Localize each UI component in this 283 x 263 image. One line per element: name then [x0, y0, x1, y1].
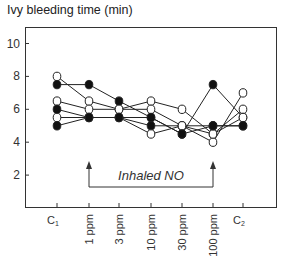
y-tick-label: 10 — [7, 37, 21, 51]
filled-circle-marker — [85, 113, 93, 121]
x-tick-label: 100 ppm — [207, 214, 219, 257]
filled-circle-marker — [85, 80, 93, 88]
open-circle-marker — [209, 130, 217, 138]
arrow-up-icon — [210, 161, 216, 169]
filled-circle-marker — [53, 122, 61, 130]
filled-circle-marker — [147, 113, 155, 121]
open-circle-marker — [53, 97, 61, 105]
filled-circle-marker — [209, 122, 217, 130]
open-circle-marker — [209, 138, 217, 146]
y-tick-label: 8 — [13, 69, 20, 83]
filled-circle-marker — [115, 113, 123, 121]
y-tick-label: 6 — [13, 102, 20, 116]
chart-plot: 246810 C11 ppm3 ppm10 ppm30 ppm100 ppmC2… — [0, 0, 283, 263]
open-circle-marker — [178, 122, 186, 130]
open-circle-marker — [147, 130, 155, 138]
open-circle-marker — [85, 105, 93, 113]
filled-circle-marker — [115, 97, 123, 105]
x-tick-label: C1 — [47, 214, 59, 227]
annotation-label: Inhaled NO — [118, 168, 184, 183]
open-circle-marker — [85, 97, 93, 105]
y-tick-label: 2 — [13, 168, 20, 182]
x-tick-label: C2 — [233, 214, 245, 227]
x-tick-label: 1 ppm — [83, 214, 95, 245]
open-circle-marker — [239, 89, 247, 97]
open-circle-marker — [147, 105, 155, 113]
open-circle-marker — [53, 113, 61, 121]
filled-circle-marker — [178, 130, 186, 138]
x-tick-label: 30 ppm — [176, 214, 188, 251]
arrow-up-icon — [86, 161, 92, 169]
open-circle-marker — [147, 97, 155, 105]
filled-circle-marker — [147, 122, 155, 130]
filled-circle-marker — [239, 122, 247, 130]
x-tick-label: 10 ppm — [145, 214, 157, 251]
open-circle-marker — [115, 105, 123, 113]
x-axis: C11 ppm3 ppm10 ppm30 ppm100 ppmC2 — [47, 203, 245, 257]
y-tick-label: 4 — [13, 135, 20, 149]
x-tick-label: 3 ppm — [113, 214, 125, 245]
open-circle-marker — [239, 113, 247, 121]
open-circle-marker — [178, 105, 186, 113]
inhaled-no-annotation: Inhaled NO — [86, 161, 216, 187]
filled-circle-marker — [209, 80, 217, 88]
filled-circle-marker — [53, 105, 61, 113]
open-circle-marker — [239, 105, 247, 113]
filled-circle-marker — [53, 80, 61, 88]
open-circle-marker — [53, 72, 61, 80]
